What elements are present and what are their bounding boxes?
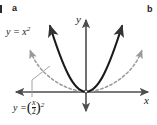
equation-dashed-body: y = bbox=[13, 102, 27, 113]
equation-solid-body: y = x bbox=[6, 26, 27, 37]
equation-label-dashed: y =(x2)2 bbox=[13, 100, 44, 118]
dashed-parabola-right bbox=[86, 50, 142, 92]
vertex-origin-marker bbox=[84, 90, 87, 93]
dashed-parabola-left bbox=[30, 50, 86, 92]
equation-dashed-exponent: 2 bbox=[41, 101, 45, 109]
parabola-comparison-figure: a b y x y bbox=[0, 0, 157, 125]
x-axis-label: x bbox=[144, 95, 149, 106]
right-paren: ) bbox=[36, 99, 41, 115]
equation-label-solid: y = x2 bbox=[6, 26, 30, 37]
equation-solid-exponent: 2 bbox=[27, 25, 31, 33]
y-axis-label: y bbox=[76, 14, 81, 25]
